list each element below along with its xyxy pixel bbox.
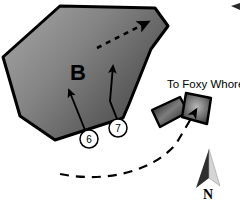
callout-label-7: 7 [109,119,127,137]
north-arrow [196,149,220,188]
building-upper-icon [182,93,211,124]
north-direction-label: N [203,188,213,202]
map-canvas [0,0,240,206]
callout-label-6: 6 [80,130,98,148]
edge-artifact-mark [231,3,240,10]
map-figure: B To Foxy Whore N 6 7 [0,0,240,206]
building-cluster [152,93,211,127]
destination-label: To Foxy Whore [167,79,240,91]
block-label: B [70,62,86,84]
